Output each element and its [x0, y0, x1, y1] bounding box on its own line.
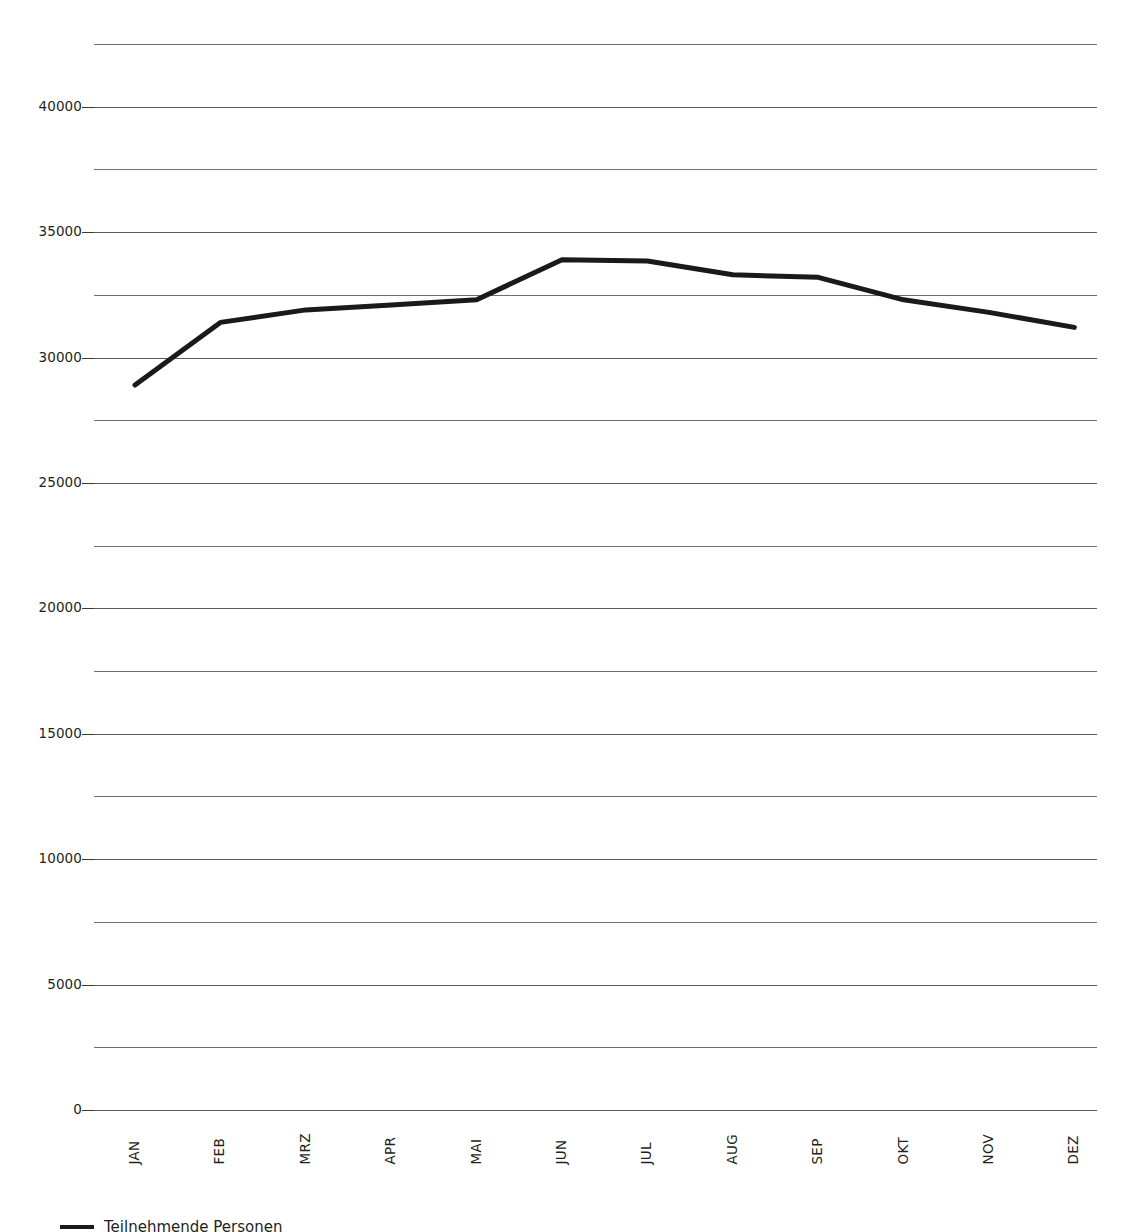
x-axis-tick-label-feb: FEB	[213, 1138, 227, 1164]
x-axis-labels: JANFEBMRZAPRMAIJUNJULAUGSEPOKTNOVDEZ	[0, 0, 1127, 1232]
x-axis-tick-label-apr: APR	[384, 1136, 398, 1164]
x-axis-tick-label-aug: AUG	[725, 1134, 739, 1164]
x-axis-tick-label-nov: NOV	[982, 1133, 996, 1164]
x-axis-tick-label-jul: JUL	[640, 1142, 654, 1164]
x-axis-tick-label-mrz: MRZ	[298, 1133, 312, 1164]
x-axis-tick-label-mai: MAI	[469, 1138, 483, 1164]
x-axis-tick-label-dez: DEZ	[1067, 1135, 1081, 1164]
line-chart: 0500010000150002000025000300003500040000…	[0, 0, 1127, 1232]
x-axis-tick-label-okt: OKT	[896, 1136, 910, 1164]
legend-label-teilnehmende-personen: Teilnehmende Personen	[104, 1218, 282, 1232]
legend-swatch-teilnehmende-personen	[60, 1225, 94, 1229]
x-axis-tick-label-jan: JAN	[128, 1140, 142, 1164]
x-axis-tick-label-sep: SEP	[811, 1138, 825, 1164]
x-axis-tick-label-jun: JUN	[555, 1139, 569, 1164]
chart-legend: Teilnehmende Personen	[60, 1216, 282, 1232]
